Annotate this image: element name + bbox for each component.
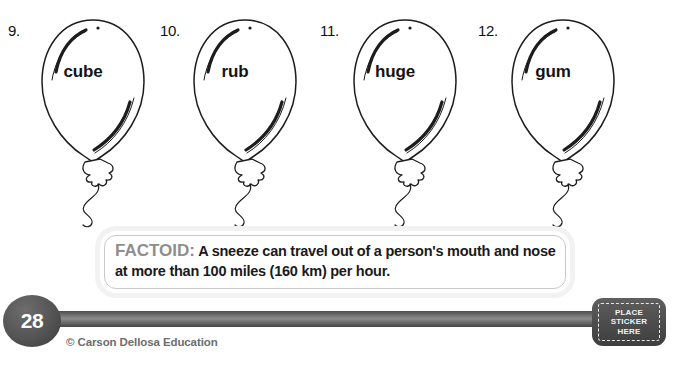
worksheet-page: 9. cube 10. [0, 0, 677, 378]
balloon-item: 12. gum [476, 0, 636, 228]
balloon-icon [180, 6, 310, 226]
balloon-number: 9. [8, 22, 20, 39]
balloons-row: 9. cube 10. [0, 0, 677, 228]
balloon-icon [28, 6, 158, 226]
balloon-icon [498, 6, 628, 226]
factoid-label: FACTOID: [115, 241, 195, 260]
page-number: 28 [21, 309, 43, 333]
page-number-badge: 28 [3, 295, 61, 347]
copyright-text: © Carson Dellosa Education [66, 336, 218, 348]
balloon-item: 10. rub [158, 0, 318, 228]
sticker-dashed-area: PLACE STICKER HERE [598, 303, 660, 341]
balloon-icon [340, 6, 470, 226]
balloon-number: 12. [478, 22, 498, 39]
factoid-text: FACTOID: A sneeze can travel out of a pe… [115, 240, 563, 280]
sticker-line-2: STICKER [611, 317, 648, 326]
balloon-word: gum [498, 62, 608, 82]
balloon-word: cube [28, 62, 138, 82]
balloon-word: huge [340, 62, 450, 82]
balloon-number: 11. [320, 22, 339, 39]
balloon-item: 11. huge [318, 0, 478, 228]
balloon-number: 10. [160, 22, 180, 39]
sticker-line-3: HERE [617, 327, 640, 336]
balloon-item: 9. cube [6, 0, 166, 228]
balloon-word: rub [180, 62, 290, 82]
sticker-line-1: PLACE [615, 308, 643, 317]
footer-bar [42, 311, 622, 327]
place-sticker-box[interactable]: PLACE STICKER HERE [592, 298, 666, 346]
